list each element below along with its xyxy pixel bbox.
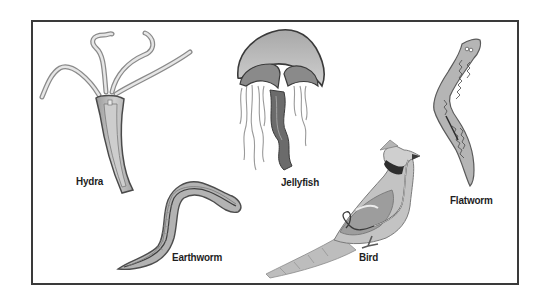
flatworm-illustration <box>434 39 481 186</box>
diagram-canvas: Hydra Earthworm Jellyfish Bird Flatworm <box>0 0 547 294</box>
label-earthworm: Earthworm <box>172 251 222 263</box>
label-bird: Bird <box>359 251 378 263</box>
label-hydra: Hydra <box>76 175 103 187</box>
hydra-tentacles <box>42 33 190 97</box>
illustration <box>0 0 547 294</box>
jellyfish-oral-arms <box>270 90 292 170</box>
flatworm-body <box>434 39 481 186</box>
jellyfish-illustration <box>238 30 324 170</box>
hydra-illustration <box>42 33 190 193</box>
label-flatworm: Flatworm <box>450 194 493 206</box>
label-jellyfish: Jellyfish <box>281 176 319 188</box>
